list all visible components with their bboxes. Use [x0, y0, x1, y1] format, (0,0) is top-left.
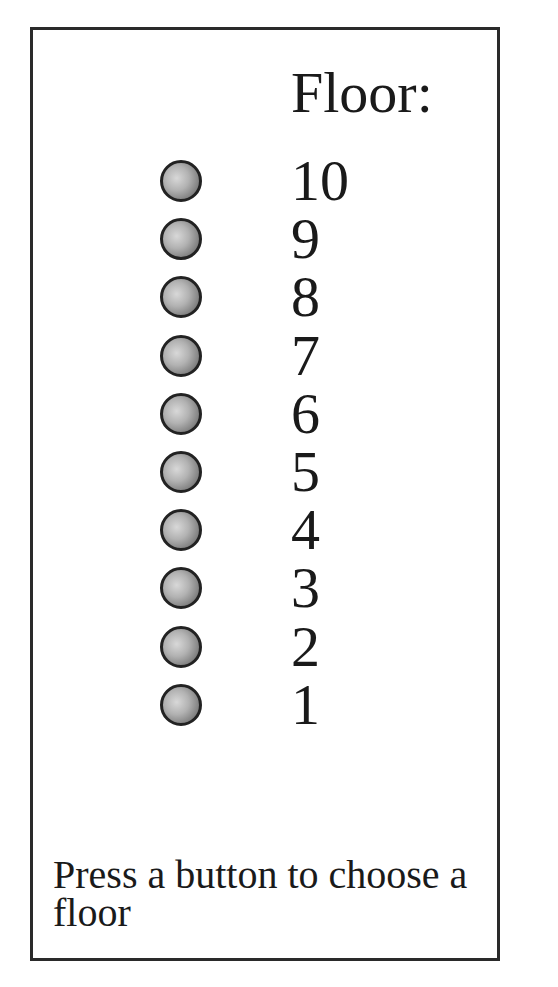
floor-button-8[interactable]	[160, 276, 202, 318]
floor-label-5: 5	[291, 443, 320, 501]
floor-label-1: 1	[291, 676, 320, 734]
floor-label-10: 10	[291, 152, 349, 210]
floor-label-7: 7	[291, 327, 320, 385]
floor-button-5[interactable]	[160, 451, 202, 493]
floor-row-3: 3	[33, 559, 497, 617]
elevator-panel: Floor: 10 9 8 7 6 5 4	[30, 27, 500, 961]
floor-row-9: 9	[33, 210, 497, 268]
floor-row-4: 4	[33, 501, 497, 559]
floor-row-5: 5	[33, 443, 497, 501]
floor-button-3[interactable]	[160, 567, 202, 609]
floor-row-1: 1	[33, 676, 497, 734]
floor-button-2[interactable]	[160, 626, 202, 668]
floor-button-1[interactable]	[160, 684, 202, 726]
floor-row-6: 6	[33, 385, 497, 443]
floor-row-2: 2	[33, 618, 497, 676]
floor-label-8: 8	[291, 268, 320, 326]
floor-label-6: 6	[291, 385, 320, 443]
floor-button-6[interactable]	[160, 393, 202, 435]
floor-button-9[interactable]	[160, 218, 202, 260]
status-message: Press a button to choose a floor	[53, 856, 493, 932]
floor-button-10[interactable]	[160, 160, 202, 202]
floor-label-3: 3	[291, 559, 320, 617]
floor-row-8: 8	[33, 268, 497, 326]
floor-row-10: 10	[33, 152, 497, 210]
floor-label-4: 4	[291, 501, 320, 559]
floor-label-9: 9	[291, 210, 320, 268]
floor-row-7: 7	[33, 327, 497, 385]
floor-list: 10 9 8 7 6 5 4 3	[33, 152, 497, 734]
panel-title: Floor:	[291, 64, 433, 122]
floor-button-7[interactable]	[160, 335, 202, 377]
floor-button-4[interactable]	[160, 509, 202, 551]
floor-label-2: 2	[291, 618, 320, 676]
